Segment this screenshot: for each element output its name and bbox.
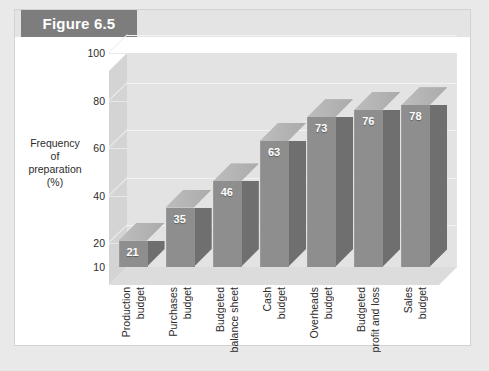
bar-front-face — [401, 105, 430, 267]
bar-front-face — [260, 141, 289, 267]
bar: 63 — [260, 141, 288, 267]
bar: 73 — [307, 117, 335, 267]
gridline-side — [109, 35, 127, 54]
figure-panel: Figure 6.5 Frequency of preparation (%) … — [14, 9, 471, 346]
gridline — [127, 35, 457, 36]
figure-number-badge: Figure 6.5 — [21, 10, 137, 37]
x-category-label-line: Budgeted — [214, 287, 226, 332]
bar-front-face — [354, 110, 383, 267]
x-category-label-line: budget — [134, 287, 146, 319]
x-category-label: Productionbudget — [111, 287, 155, 371]
y-tick-label: 80 — [93, 95, 105, 107]
x-category-label-line: Cash — [261, 287, 273, 312]
x-category-label: Overheadsbudget — [299, 287, 343, 371]
gridline-side — [109, 83, 127, 102]
x-category-label: Cashbudget — [252, 287, 296, 371]
bar-value-label: 35 — [166, 213, 194, 225]
bar-value-label: 78 — [401, 110, 429, 122]
bar-side-face — [288, 141, 306, 267]
x-category-label-line: budget — [322, 287, 334, 319]
x-category-label-line: budget — [416, 287, 428, 319]
y-tick-label: 20 — [93, 237, 105, 249]
chart-area: Frequency of preparation (%) 10080604020… — [15, 37, 472, 346]
plot-area: 21354663737678 — [109, 53, 457, 285]
bar: 21 — [119, 241, 147, 267]
gridline — [127, 83, 457, 84]
y-axis-tick-labels: 1008060402010 — [71, 37, 105, 346]
bar-value-label: 63 — [260, 146, 288, 158]
x-category-label: Budgetedprofit and loss — [346, 287, 390, 371]
bar-front-face — [307, 117, 336, 267]
bar-value-label: 73 — [307, 122, 335, 134]
x-category-label-line: profit and loss — [369, 287, 381, 352]
bar: 35 — [166, 208, 194, 267]
x-category-label-line: Production — [120, 287, 132, 337]
x-axis-category-labels: ProductionbudgetPurchasesbudgetBudgetedb… — [109, 287, 457, 371]
bar-side-face — [335, 117, 353, 267]
x-category-label: Purchasesbudget — [158, 287, 202, 371]
x-category-label: Budgetedbalance sheet — [205, 287, 249, 371]
bar-value-label: 46 — [213, 186, 241, 198]
bar: 78 — [401, 105, 429, 267]
bar-value-label: 21 — [119, 246, 147, 258]
y-tick-label: 40 — [93, 190, 105, 202]
x-category-label: Salesbudget — [393, 287, 437, 371]
x-category-label-line: budget — [181, 287, 193, 319]
y-tick-label: 10 — [93, 261, 105, 273]
bar-value-label: 76 — [354, 115, 382, 127]
x-category-label-line: Sales — [402, 287, 414, 313]
x-category-label-line: Overheads — [308, 287, 320, 338]
y-tick-label: 60 — [93, 142, 105, 154]
x-category-label-line: balance sheet — [228, 287, 240, 352]
bar: 46 — [213, 181, 241, 267]
x-category-label-line: Purchases — [167, 287, 179, 337]
y-tick-label: 100 — [87, 47, 105, 59]
bar-side-face — [429, 105, 447, 267]
bar: 76 — [354, 110, 382, 267]
bar-side-face — [382, 110, 400, 267]
plot-floor — [109, 267, 457, 285]
gridline-side — [109, 130, 127, 149]
gridline-side — [109, 178, 127, 197]
x-category-label-line: budget — [275, 287, 287, 319]
x-category-label-line: Budgeted — [355, 287, 367, 332]
